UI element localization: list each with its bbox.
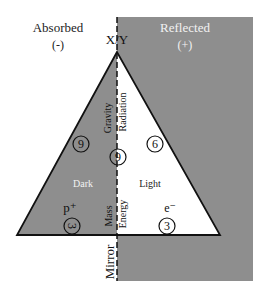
reflected-title: Reflected xyxy=(160,20,210,35)
radiation-label: Radiation xyxy=(117,93,128,132)
svg-text:3: 3 xyxy=(65,223,79,229)
apex-label: X/Y xyxy=(106,32,129,47)
svg-text:3: 3 xyxy=(164,219,170,233)
absorbed-sign: (-) xyxy=(52,38,64,52)
svg-text:6: 6 xyxy=(78,137,84,151)
energy-label: Energy xyxy=(117,200,128,229)
mirror-label: Mirror xyxy=(102,244,117,279)
mirror-triangle-diagram: Absorbed (-) Reflected (+) X/Y Gravity R… xyxy=(0,0,263,298)
dark-label: Dark xyxy=(73,178,93,189)
absorbed-title: Absorbed xyxy=(33,20,84,35)
light-label: Light xyxy=(139,178,161,189)
gravity-label: Gravity xyxy=(102,103,113,134)
proton-label: p⁺ xyxy=(63,200,76,215)
mass-label: Mass xyxy=(103,205,114,226)
svg-text:9: 9 xyxy=(115,150,121,164)
reflected-sign: (+) xyxy=(178,38,193,52)
electron-label: e⁻ xyxy=(164,201,176,215)
svg-text:6: 6 xyxy=(152,137,158,151)
